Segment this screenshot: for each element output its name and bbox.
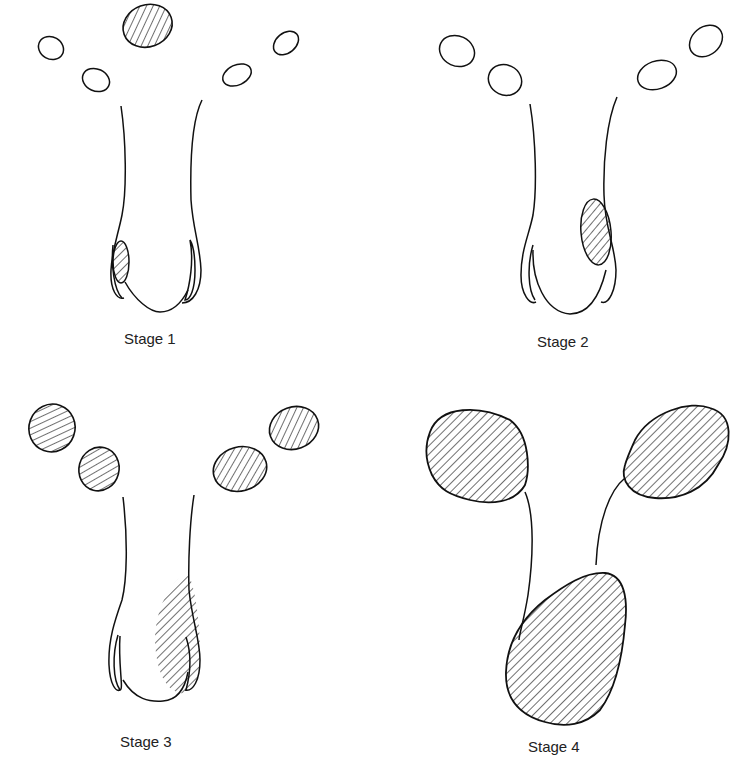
stage-2-ovary-left-outer <box>434 30 479 72</box>
stage-1-right-fornix <box>185 240 195 300</box>
stage-2-uterus-right-wall <box>601 97 617 302</box>
stage-4-label: Stage 4 <box>528 738 580 755</box>
stage-3-ovary-right-inner <box>208 441 272 497</box>
stage-4-mass-right <box>624 406 729 499</box>
stage-3-drawing <box>22 0 272 497</box>
stage-2-label: Stage 2 <box>537 333 589 350</box>
stage-2-lesion <box>578 198 614 266</box>
stage-4-mass-left <box>426 410 527 502</box>
stage-2-drawing <box>434 19 728 314</box>
stage-1-uterus-bottom <box>125 282 188 312</box>
stage-4-mass-lower <box>506 573 626 725</box>
stage-4-drawing <box>426 406 728 725</box>
stage-3-label: Stage 3 <box>120 733 172 750</box>
stage-3-ovary-right-outer-shape <box>263 400 324 457</box>
stage-1-lesion <box>113 241 129 283</box>
stage-1-ovary-left-inner <box>79 64 114 96</box>
staging-diagram <box>0 0 754 775</box>
stage-3-lesion <box>155 573 200 693</box>
stage-1-ovary-left-outer <box>34 32 68 64</box>
stage-1-drawing <box>34 26 303 312</box>
stage-3-ovary-left-outer <box>22 398 82 459</box>
stage-2-ovary-right-inner <box>633 55 680 95</box>
stage-1-ovary-right-outer <box>269 26 303 59</box>
stage-4-tube-right <box>596 478 625 565</box>
stage-1-label: Stage 1 <box>124 330 176 347</box>
stage-3-ovary-right-outer <box>117 0 178 54</box>
stage-2-ovary-right-outer <box>683 19 729 64</box>
stage-2-ovary-left-inner <box>483 59 526 101</box>
stage-3-ovary-left-inner <box>74 443 124 496</box>
stage-1-ovary-right-inner <box>219 60 255 91</box>
stage-1-uterus-right-wall <box>182 100 202 303</box>
